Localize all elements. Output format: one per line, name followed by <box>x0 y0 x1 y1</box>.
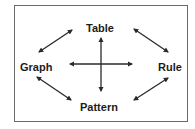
node-graph-label: Graph <box>20 62 52 73</box>
arrow-table-rule <box>134 29 168 52</box>
node-rule-label: Rule <box>158 62 182 73</box>
arrow-graph-pattern <box>37 77 71 100</box>
node-pattern-label: Pattern <box>80 102 118 113</box>
arrow-pattern-rule <box>134 78 168 100</box>
arrow-graph-table <box>39 30 72 52</box>
node-table-label: Table <box>86 23 114 34</box>
